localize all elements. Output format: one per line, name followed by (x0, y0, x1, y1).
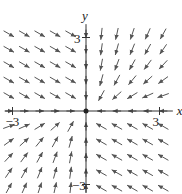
vector-arrow (112, 185, 122, 191)
vector-arrow (158, 94, 169, 98)
y-tick-label: −3 (72, 178, 86, 193)
vector-arrow (112, 139, 122, 145)
vector-arrow (19, 62, 29, 68)
vector-arrow (129, 76, 137, 85)
vector-arrow (129, 60, 135, 70)
vector-arrow (19, 46, 29, 52)
vector-arrow (96, 170, 106, 176)
vector-arrow (145, 28, 150, 39)
vector-field-plot: x y −333−3 (0, 0, 182, 193)
vector-arrow (142, 93, 153, 98)
vector-arrow (143, 185, 153, 191)
vector-arrow (99, 90, 105, 101)
vector-arrow (4, 62, 14, 68)
vector-arrow (127, 154, 137, 160)
vector-arrow (130, 44, 135, 55)
vector-arrow (70, 151, 72, 163)
vector-arrow (127, 139, 137, 145)
vector-arrow (69, 136, 72, 148)
origin-point (84, 109, 89, 114)
vector-arrow (101, 28, 102, 40)
y-tick-label: 3 (74, 31, 81, 46)
vector-arrow (53, 152, 57, 163)
vector-arrow (112, 154, 122, 160)
vector-arrow (160, 29, 166, 39)
vector-arrow (127, 185, 137, 191)
vector-arrow (50, 62, 60, 68)
vector-arrow (4, 77, 14, 83)
vector-arrow (96, 185, 106, 191)
vector-arrow (4, 93, 14, 99)
vector-arrow (143, 76, 152, 84)
x-tick-label: −3 (6, 114, 20, 129)
vector-arrow (5, 168, 12, 178)
vector-arrow (19, 31, 29, 37)
vector-arrow (143, 154, 153, 160)
vector-arrow (112, 170, 122, 176)
vector-arrow (37, 167, 42, 178)
vector-arrow (114, 75, 120, 86)
vector-arrow (52, 137, 58, 148)
vector-arrow (143, 123, 153, 129)
vector-arrow (65, 77, 75, 83)
vector-arrow (116, 28, 119, 40)
x-tick-label: 3 (153, 114, 160, 129)
vector-arrow (19, 124, 30, 129)
vector-arrow (65, 62, 75, 68)
vector-arrow (65, 46, 75, 52)
vector-arrow (158, 123, 168, 129)
vector-arrow (127, 170, 137, 176)
vector-arrow (158, 185, 168, 191)
vector-arrow (35, 93, 45, 99)
vector-arrow (112, 123, 122, 129)
vector-arrow (4, 138, 14, 145)
vector-arrow (50, 31, 60, 37)
vector-arrow (144, 60, 151, 70)
vector-arrow (38, 183, 42, 194)
vector-arrow (158, 154, 168, 160)
vector-arrow (36, 137, 44, 146)
vector-arrow (50, 77, 60, 83)
vector-arrow (143, 139, 153, 145)
vector-arrow (19, 77, 29, 83)
vector-arrow (127, 93, 137, 99)
y-axis-label: y (80, 8, 88, 23)
vector-arrow (130, 28, 134, 39)
vector-arrow (158, 77, 168, 84)
vector-arrow (127, 123, 137, 129)
vector-arrow (101, 43, 103, 55)
vector-arrow (4, 31, 14, 37)
vector-arrow (54, 182, 57, 193)
vector-arrow (115, 59, 119, 70)
vector-arrow (159, 60, 167, 69)
vector-arrow (54, 167, 57, 179)
vector-arrow (68, 121, 74, 132)
vector-arrow (143, 170, 153, 176)
vector-arrow (50, 93, 60, 99)
vector-arrow (145, 44, 151, 55)
vector-arrow (158, 139, 168, 145)
vector-arrow (35, 123, 45, 129)
vector-arrow (115, 44, 118, 56)
vector-arrow (112, 92, 121, 100)
vector-arrow (20, 138, 29, 146)
vector-arrow (160, 44, 167, 54)
vector-arrow (35, 31, 45, 37)
vector-arrow (35, 62, 45, 68)
vector-arrow (22, 183, 27, 193)
vector-arrow (4, 46, 14, 52)
vector-arrow (158, 170, 168, 176)
vector-arrow (65, 93, 75, 99)
vector-arrow (96, 154, 106, 160)
vector-arrow (21, 153, 28, 163)
vector-arrow (35, 77, 45, 83)
vector-arrow (51, 122, 60, 130)
vector-arrow (96, 139, 106, 145)
vector-arrow (5, 153, 13, 162)
vector-arrow (19, 93, 29, 99)
vector-arrow (21, 168, 27, 179)
vector-arrow (70, 182, 71, 193)
vector-arrow (100, 59, 102, 71)
x-axis-label: x (176, 103, 182, 118)
vector-arrow (37, 152, 43, 162)
